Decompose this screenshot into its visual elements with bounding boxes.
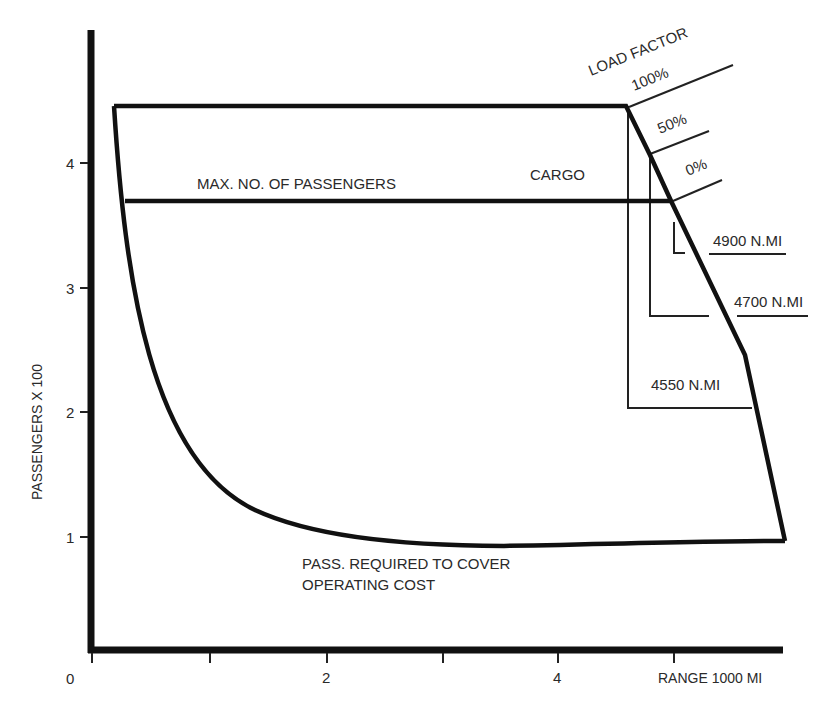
- breakeven-curve: [114, 106, 785, 546]
- lf50-leader: [650, 131, 709, 154]
- y-tick-label-2: 2: [66, 404, 74, 421]
- payload-range-chart: 4 3 2 1 0 2 4 RANGE 1000 MI PASSENGERS X…: [0, 0, 838, 705]
- load-factor-50: 50%: [655, 110, 689, 137]
- y-tick-label-4: 4: [66, 155, 74, 172]
- breakeven-label-line2: OPERATING COST: [302, 576, 435, 593]
- origin-label: 0: [66, 670, 74, 687]
- range-4900-label: 4900 N.MI: [713, 232, 782, 249]
- y-tick-label-3: 3: [66, 280, 74, 297]
- load-factor-0: 0%: [683, 155, 709, 179]
- load-factor-100: 100%: [629, 64, 671, 94]
- breakeven-label-line1: PASS. REQUIRED TO COVER: [302, 555, 511, 572]
- max-passengers-label: MAX. NO. OF PASSENGERS: [197, 175, 396, 192]
- x-tick-label-2: 2: [322, 669, 330, 686]
- range-4550-label: 4550 N.MI: [651, 376, 720, 393]
- cargo-label: CARGO: [530, 166, 585, 183]
- load-factor-label: LOAD FACTOR: [586, 23, 690, 78]
- x-axis-title: RANGE 1000 MI: [658, 670, 762, 686]
- y-tick-label-1: 1: [66, 529, 74, 546]
- y-axis-title: PASSENGERS X 100: [29, 364, 45, 500]
- range-4700-label: 4700 N.MI: [734, 293, 803, 310]
- lf0-leader: [673, 180, 722, 201]
- x-tick-label-4: 4: [553, 669, 561, 686]
- payload-range-boundary: [114, 106, 785, 541]
- envelope: [114, 106, 785, 546]
